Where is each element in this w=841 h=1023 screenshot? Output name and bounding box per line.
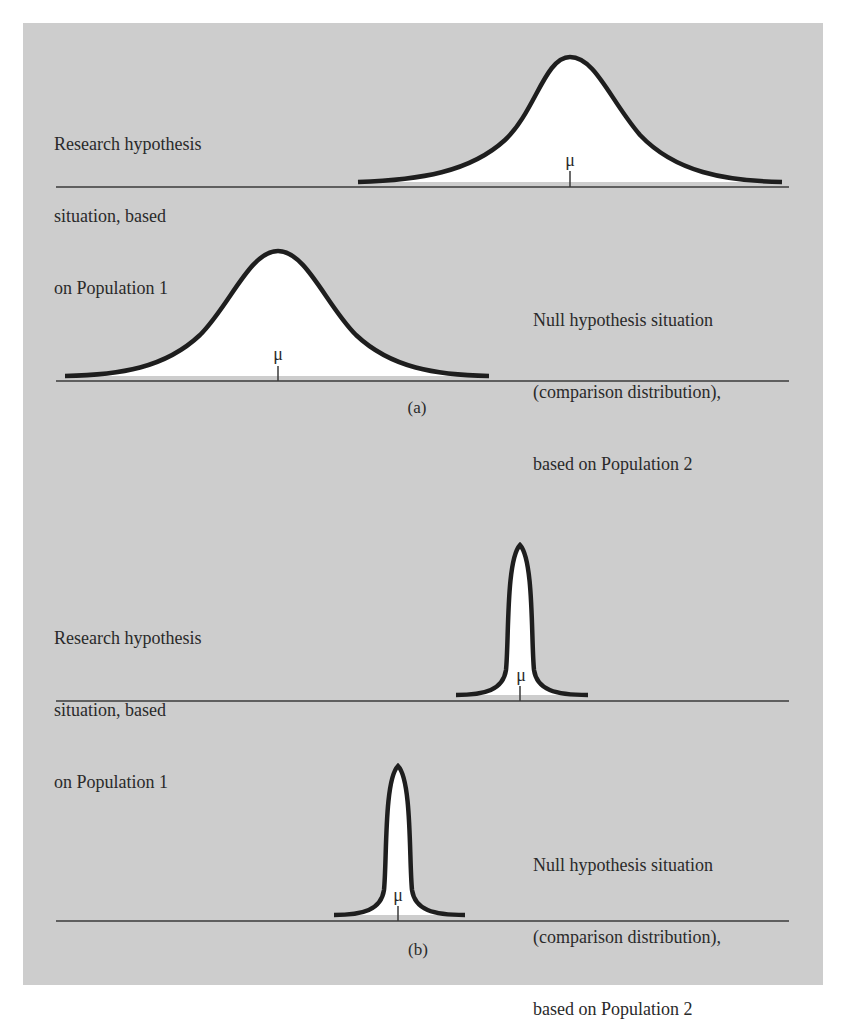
panel-a-null-label-line: based on Population 2: [533, 452, 721, 476]
panel-a-null-label-line: (comparison distribution),: [533, 380, 721, 404]
panel-a-research-mean-label: μ: [560, 151, 580, 169]
panel-a-null-mean-label: μ: [268, 345, 288, 363]
panel-b-caption: (b): [398, 940, 438, 960]
panel-a-null-label-line: Null hypothesis situation: [533, 308, 721, 332]
panel-b-research-mean-label: μ: [511, 666, 531, 684]
panel-b-research-label-line: Research hypothesis: [54, 626, 201, 650]
panel-a-research-label-line: Research hypothesis: [54, 132, 201, 156]
panel-a-caption: (a): [397, 398, 437, 418]
panel-b-null-label-line: based on Population 2: [533, 997, 721, 1021]
panel-a-null-label: Null hypothesis situation (comparison di…: [533, 260, 721, 500]
panel-b-research-label-line: situation, based: [54, 698, 201, 722]
panel-b-null-label: Null hypothesis situation (comparison di…: [533, 805, 721, 1023]
panel-b-null-label-line: Null hypothesis situation: [533, 853, 721, 877]
panel-a-research-label-line: situation, based: [54, 204, 201, 228]
panel-a-research-label-line: on Population 1: [54, 276, 201, 300]
panel-b-research-label: Research hypothesis situation, based on …: [54, 578, 201, 818]
panel-b-null-mean-label: μ: [388, 886, 408, 904]
panel-a-research-label: Research hypothesis situation, based on …: [54, 84, 201, 324]
panel-b-research-label-line: on Population 1: [54, 770, 201, 794]
panel-b-null-label-line: (comparison distribution),: [533, 925, 721, 949]
